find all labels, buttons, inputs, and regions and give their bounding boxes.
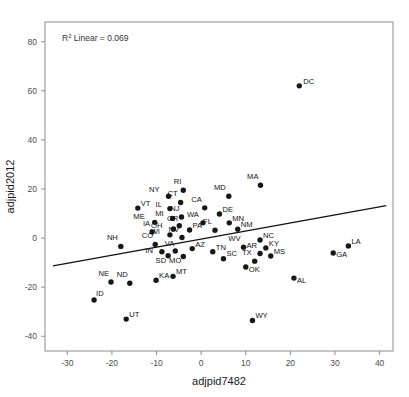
point-label-MS: MS	[274, 247, 285, 256]
point-label-DC: DC	[303, 77, 314, 86]
data-point-NH	[118, 244, 123, 249]
point-label-FL: FL	[203, 217, 212, 226]
data-point-NE	[108, 279, 113, 284]
point-label-VA: VA	[165, 239, 176, 248]
data-point-FL	[212, 228, 217, 233]
data-point-TX	[252, 258, 257, 263]
data-point-GA	[331, 250, 336, 255]
point-label-MI: MI	[155, 209, 163, 218]
y-axis-title: adjpid2012	[4, 160, 16, 214]
tick-labels: -30-20-10010203040-40-20020406080	[25, 37, 385, 368]
point-label-WY: WY	[255, 311, 267, 320]
point-label-ID: ID	[96, 289, 104, 298]
point-label-NV: NV	[168, 225, 179, 234]
data-point-DC	[297, 83, 302, 88]
point-label-IL: IL	[156, 200, 162, 209]
r-squared-annotation: R2 Linear = 0.069	[62, 33, 129, 44]
data-point-ND	[127, 281, 132, 286]
data-point-DE	[217, 211, 222, 216]
point-label-OK: OK	[249, 265, 260, 274]
point-label-MA: MA	[247, 172, 259, 181]
data-point-CO	[153, 242, 158, 247]
data-point-NJ	[179, 214, 184, 219]
x-tick-label: 0	[199, 358, 204, 368]
data-point-MN	[227, 220, 232, 225]
r2-annotation-text: R2 Linear = 0.069	[62, 33, 129, 44]
y-tick-label: -20	[25, 282, 38, 292]
y-tick-label: 60	[28, 86, 38, 96]
x-tick-label: -20	[106, 358, 119, 368]
point-label-PA: PA	[193, 221, 204, 230]
point-label-CO: CO	[142, 231, 153, 240]
point-label-IN: IN	[145, 246, 153, 255]
data-point-WY	[250, 318, 255, 323]
data-point-NV	[179, 235, 184, 240]
data-point-PA	[187, 227, 192, 232]
y-tick-label: 80	[28, 37, 38, 47]
point-label-SD: SD	[156, 256, 167, 265]
point-label-CA: CA	[191, 195, 202, 204]
point-label-UT: UT	[129, 310, 139, 319]
data-point-VT	[135, 205, 140, 210]
data-point-MD	[226, 194, 231, 199]
point-label-RI: RI	[174, 177, 182, 186]
data-points: DCMAMDRINYCTVTILCADENJMIMEWAMNOROHPAFLNM…	[91, 77, 361, 323]
x-axis-title: adjpid7482	[192, 375, 246, 387]
data-point-NC	[257, 237, 262, 242]
data-point-AR	[257, 251, 262, 256]
data-point-MS	[268, 253, 273, 258]
scatter-chart: -30-20-10010203040-40-20020406080 DCMAMD…	[0, 0, 409, 397]
point-label-NY: NY	[149, 185, 160, 194]
x-tick-label: -30	[61, 358, 74, 368]
axis-ticks	[41, 42, 380, 355]
point-label-NJ: NJ	[170, 204, 179, 213]
point-label-AL: AL	[297, 276, 306, 285]
data-point-KA	[153, 278, 158, 283]
point-label-NE: NE	[98, 269, 109, 278]
x-tick-label: 20	[286, 358, 296, 368]
data-point-AZ	[190, 246, 195, 251]
data-point-VA	[173, 248, 178, 253]
point-label-DE: DE	[222, 205, 233, 214]
data-point-MO	[181, 254, 186, 259]
point-label-TX: TX	[242, 248, 252, 257]
point-label-AZ: AZ	[195, 240, 205, 249]
data-point-NM	[235, 227, 240, 232]
plot-svg: -30-20-10010203040-40-20020406080 DCMAMD…	[0, 0, 409, 397]
x-tick-label: 10	[241, 358, 251, 368]
data-point-IN	[159, 249, 164, 254]
point-label-SC: SC	[226, 249, 237, 258]
data-point-MA	[258, 183, 263, 188]
data-point-SC	[221, 256, 226, 261]
y-tick-label: -40	[25, 331, 38, 341]
point-label-MD: MD	[214, 183, 226, 192]
data-point-OK	[243, 264, 248, 269]
point-label-MT: MT	[176, 267, 187, 276]
point-label-CT: CT	[168, 189, 178, 198]
point-label-WA: WA	[187, 210, 200, 219]
point-label-LA: LA	[351, 237, 361, 246]
data-point-LA	[346, 243, 351, 248]
point-label-MO: MO	[169, 256, 181, 265]
data-point-TN	[210, 249, 215, 254]
point-label-TN: TN	[216, 243, 226, 252]
data-point-CA	[202, 205, 207, 210]
point-label-VT: VT	[141, 199, 151, 208]
data-point-MT	[170, 274, 175, 279]
data-point-AL	[291, 275, 296, 280]
point-label-KA: KA	[159, 271, 170, 280]
y-tick-label: 20	[28, 184, 38, 194]
x-tick-label: 40	[375, 358, 385, 368]
x-tick-label: 30	[330, 358, 340, 368]
x-tick-label: -10	[150, 358, 163, 368]
point-label-OR: OR	[167, 214, 179, 223]
point-label-WV: WV	[228, 234, 241, 243]
data-point-UT	[124, 316, 129, 321]
data-point-RI	[181, 187, 186, 192]
data-point-ID	[91, 297, 96, 302]
point-label-NH: NH	[107, 233, 118, 242]
y-tick-label: 0	[32, 233, 37, 243]
point-label-NM: NM	[241, 220, 253, 229]
point-label-ND: ND	[117, 270, 128, 279]
y-tick-label: 40	[28, 135, 38, 145]
